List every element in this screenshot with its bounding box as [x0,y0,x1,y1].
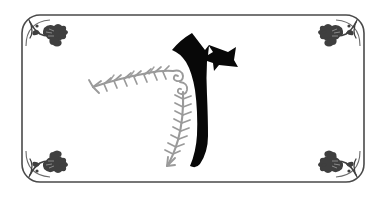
artwork-canvas [0,0,381,197]
illuminated-letter-plate [0,0,381,197]
